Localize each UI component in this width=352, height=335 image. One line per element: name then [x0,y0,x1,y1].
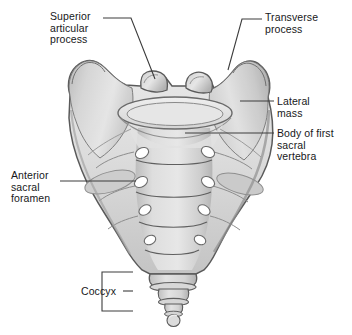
superior-articular-process-right [186,72,213,93]
sacrum-illustration [0,0,352,335]
leader-superior-articular-process [103,18,155,79]
s1-body-inner-rim [127,103,223,126]
label-superior-articular-process: Superior articular process [50,11,91,46]
label-anterior-sacral-foramen: Anterior sacral foramen [11,170,50,205]
sacrum-anatomy-figure: Superior articular process Transverse pr… [0,0,352,335]
label-coccyx: Coccyx [81,286,116,298]
label-lateral-mass: Lateral mass [277,96,310,119]
label-body-of-first-sacral-vertebra: Body of first sacral vertebra [277,128,334,163]
coccyx-segment-4-apex [167,315,180,327]
coccyx [149,274,197,327]
label-transverse-process: Transverse process [265,12,318,35]
sacrum-bone [68,61,272,274]
